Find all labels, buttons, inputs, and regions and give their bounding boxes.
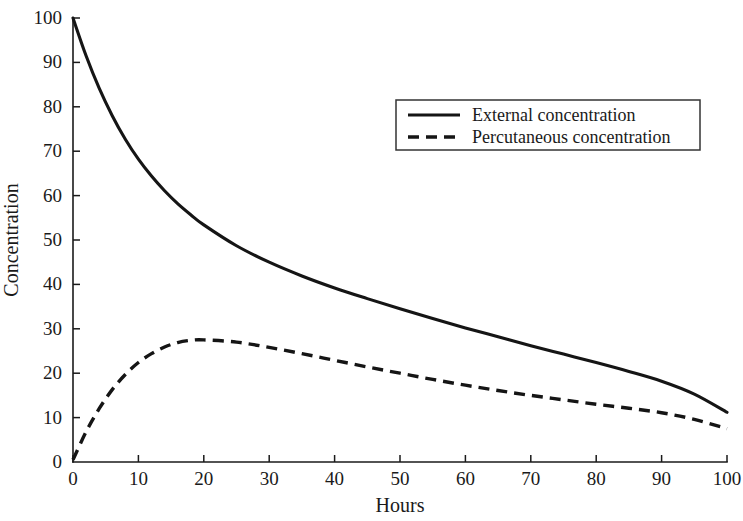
y-tick-label: 100: [34, 7, 63, 28]
y-tick-label: 0: [53, 451, 63, 472]
plot-axes: [73, 18, 727, 462]
series-line-external-concentration: [73, 18, 727, 412]
x-tick-label: 10: [129, 468, 148, 489]
y-tick-label: 90: [43, 51, 62, 72]
y-tick-label: 50: [43, 229, 62, 250]
y-tick-label: 10: [43, 407, 62, 428]
y-tick-label: 40: [43, 273, 62, 294]
y-axis-ticks: [73, 18, 80, 418]
series-line-percutaneous-concentration: [73, 340, 727, 460]
y-tick-label: 20: [43, 362, 62, 383]
concentration-vs-hours-chart: 0102030405060708090100 01020304050607080…: [0, 0, 743, 521]
y-tick-label: 30: [43, 318, 62, 339]
x-tick-label: 100: [713, 468, 742, 489]
x-tick-label: 50: [391, 468, 410, 489]
y-axis-tick-labels: 0102030405060708090100: [34, 7, 63, 472]
x-tick-label: 80: [587, 468, 606, 489]
legend: External concentration Percutaneous conc…: [396, 100, 700, 150]
chart-page: 0102030405060708090100 01020304050607080…: [0, 0, 743, 521]
y-tick-label: 80: [43, 96, 62, 117]
y-tick-label: 70: [43, 140, 62, 161]
x-tick-label: 90: [652, 468, 671, 489]
x-axis-ticks: [73, 455, 727, 462]
x-axis-tick-labels: 0102030405060708090100: [68, 468, 741, 489]
x-tick-label: 20: [194, 468, 213, 489]
x-tick-label: 40: [325, 468, 344, 489]
y-axis-title: Concentration: [0, 183, 22, 296]
y-tick-label: 60: [43, 185, 62, 206]
legend-label-0: External concentration: [472, 105, 635, 125]
x-axis-title: Hours: [376, 494, 425, 516]
x-tick-label: 60: [456, 468, 475, 489]
x-tick-label: 70: [521, 468, 540, 489]
x-tick-label: 30: [260, 468, 279, 489]
legend-label-1: Percutaneous concentration: [472, 127, 670, 147]
x-tick-label: 0: [68, 468, 78, 489]
